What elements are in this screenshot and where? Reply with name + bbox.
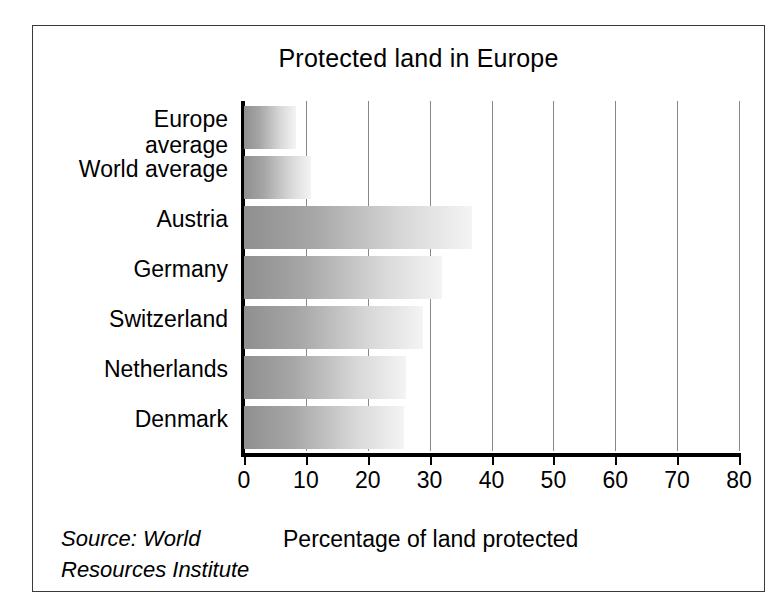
category-label: Europe average (14, 106, 244, 158)
bar (244, 156, 311, 199)
x-tick-50 (553, 455, 555, 465)
category-label: Germany (14, 256, 244, 282)
source-note: Source: World Resources Institute (61, 523, 281, 585)
bar-row: Switzerland (244, 306, 423, 349)
x-tick-30 (430, 455, 432, 465)
x-tick-0 (244, 455, 246, 465)
plot-area: 0 10 20 30 40 50 60 70 80 Europe average… (244, 101, 739, 451)
x-axis-label: Percentage of land protected (283, 526, 578, 553)
bar-row: Netherlands (244, 356, 406, 399)
x-tick-70 (677, 455, 679, 465)
bar (244, 256, 442, 299)
x-tick-label-10: 10 (276, 467, 336, 494)
x-tick-label-30: 30 (400, 467, 460, 494)
x-tick-label-80: 80 (709, 467, 769, 494)
gridline-80 (739, 101, 740, 451)
x-tick-60 (615, 455, 617, 465)
bar (244, 406, 404, 449)
gridline-60 (615, 101, 616, 451)
x-tick-80 (739, 455, 741, 465)
bar (244, 356, 406, 399)
bar (244, 306, 423, 349)
bar-row: World average (244, 156, 311, 199)
gridline-70 (677, 101, 678, 451)
category-label: World average (14, 156, 244, 182)
x-tick-40 (492, 455, 494, 465)
x-tick-label-70: 70 (647, 467, 707, 494)
x-tick-label-20: 20 (338, 467, 398, 494)
chart-figure: Protected land in Europe 0 10 20 30 40 5… (32, 25, 765, 592)
gridline-40 (492, 101, 493, 451)
bar-row: Denmark (244, 406, 404, 449)
bar-row: Europe average (244, 106, 296, 149)
x-tick-label-40: 40 (462, 467, 522, 494)
x-tick-label-0: 0 (214, 467, 274, 494)
bar-row: Austria (244, 206, 472, 249)
bar-row: Germany (244, 256, 442, 299)
x-tick-label-60: 60 (585, 467, 645, 494)
bar (244, 206, 472, 249)
category-label: Netherlands (14, 356, 244, 382)
category-label: Switzerland (14, 306, 244, 332)
bar (244, 106, 296, 149)
category-label: Austria (14, 206, 244, 232)
x-tick-20 (368, 455, 370, 465)
gridline-50 (553, 101, 554, 451)
category-label: Denmark (14, 406, 244, 432)
x-tick-label-50: 50 (523, 467, 583, 494)
chart-title: Protected land in Europe (33, 44, 764, 73)
x-tick-10 (306, 455, 308, 465)
